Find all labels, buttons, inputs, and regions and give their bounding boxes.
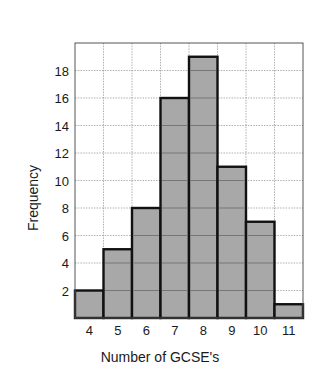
- y-tick-label: 12: [55, 146, 69, 161]
- y-tick-label: 8: [62, 201, 69, 216]
- histogram-chart: 24681012141618 4567891011 Number of GCSE…: [0, 0, 321, 382]
- y-tick-labels: 24681012141618: [55, 64, 69, 299]
- x-tick-label: 9: [228, 323, 235, 338]
- y-tick-label: 16: [55, 91, 69, 106]
- y-tick-label: 10: [55, 174, 69, 189]
- y-tick-label: 14: [55, 119, 69, 134]
- x-tick-label: 4: [86, 323, 93, 338]
- bar-4: [75, 291, 104, 319]
- bar-9: [218, 167, 247, 318]
- y-tick-label: 18: [55, 64, 69, 79]
- y-tick-label: 4: [62, 256, 69, 271]
- y-axis-label: Frequency: [25, 165, 41, 231]
- bars: [75, 57, 303, 318]
- x-tick-label: 7: [171, 323, 178, 338]
- x-tick-label: 10: [253, 323, 267, 338]
- x-axis-label: Number of GCSE's: [101, 349, 220, 365]
- bar-10: [246, 222, 275, 318]
- x-tick-label: 6: [143, 323, 150, 338]
- y-tick-label: 6: [62, 229, 69, 244]
- bar-8: [189, 57, 218, 318]
- x-tick-label: 5: [114, 323, 121, 338]
- bar-11: [275, 304, 304, 318]
- x-tick-labels: 4567891011: [86, 323, 296, 338]
- bar-5: [104, 249, 133, 318]
- x-tick-label: 8: [200, 323, 207, 338]
- x-tick-label: 11: [282, 323, 296, 338]
- y-tick-label: 2: [62, 284, 69, 299]
